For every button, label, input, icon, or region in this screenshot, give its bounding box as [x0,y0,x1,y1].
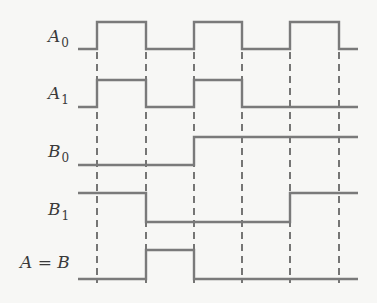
timing-diagram: A0A1B0B1A = B [0,0,377,303]
signal-label: A = B [18,252,70,272]
signal-label: A0 [46,26,69,50]
waveform-b0 [78,137,358,165]
signal-label: B1 [47,199,69,223]
signal-label: A1 [46,83,69,107]
signal-waveforms [78,22,358,279]
waveform-b1 [78,193,358,222]
waveform-a1 [78,80,358,107]
signal-label: B0 [47,141,69,165]
waveform-a-b [78,250,358,279]
waveform-a0 [78,22,358,49]
clock-edge-guides [97,52,339,283]
signal-labels: A0A1B0B1A = B [18,26,70,272]
